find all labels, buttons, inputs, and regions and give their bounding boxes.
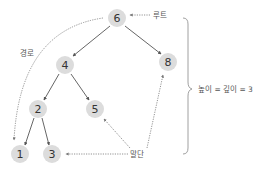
node-5: 5 xyxy=(86,100,104,118)
path-arrow xyxy=(14,18,103,140)
edge-6-8 xyxy=(125,26,161,54)
node-4: 4 xyxy=(56,56,74,74)
svg-text:5: 5 xyxy=(92,103,99,116)
edge-4-2 xyxy=(44,74,59,100)
path-label: 경로 xyxy=(20,48,34,58)
svg-text:8: 8 xyxy=(165,56,172,69)
height-label: 높이 = 깊이 = 3 xyxy=(198,84,253,94)
leaf-arrow-5 xyxy=(104,119,130,148)
svg-text:3: 3 xyxy=(49,148,56,161)
edge-2-1 xyxy=(25,118,34,145)
root-label: 루트 xyxy=(153,11,167,20)
tree-nodes: 6 4 8 2 5 1 3 xyxy=(11,9,177,163)
node-1: 1 xyxy=(11,145,29,163)
tree-diagram: 6 4 8 2 5 1 3 루트 경로 말단 높이 = 깊이 = 3 xyxy=(0,0,261,170)
edge-4-5 xyxy=(71,74,89,100)
edge-6-4 xyxy=(73,26,110,56)
node-2: 2 xyxy=(29,100,47,118)
node-3: 3 xyxy=(43,145,61,163)
svg-text:1: 1 xyxy=(17,148,24,161)
annotation-arrows xyxy=(14,15,163,154)
height-brace xyxy=(183,18,192,154)
svg-text:6: 6 xyxy=(114,12,121,25)
svg-text:2: 2 xyxy=(35,103,42,116)
node-6: 6 xyxy=(108,9,126,27)
edge-2-3 xyxy=(42,118,49,145)
svg-text:4: 4 xyxy=(62,59,69,72)
leaf-label: 말단 xyxy=(130,149,144,159)
leaf-arrow-8 xyxy=(147,75,163,148)
node-8: 8 xyxy=(159,53,177,71)
tree-edges xyxy=(25,26,161,145)
